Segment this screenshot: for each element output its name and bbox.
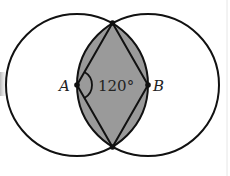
point-bottom-dot [110, 144, 116, 150]
label-point-a: A [57, 77, 70, 95]
label-angle: 120° [98, 77, 134, 95]
diagram-canvas: A B 120° [0, 0, 230, 176]
point-a-dot [74, 82, 80, 88]
point-top-dot [110, 20, 116, 26]
geometry-diagram: A B 120° [0, 0, 230, 176]
scan-artifact [0, 72, 9, 96]
label-point-b: B [152, 77, 164, 95]
point-b-dot [145, 82, 151, 88]
